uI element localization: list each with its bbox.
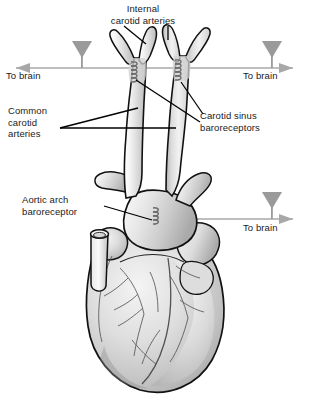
label-common-carotid-line1: Common bbox=[8, 105, 86, 117]
label-common-carotid-line3: arteries bbox=[8, 128, 86, 140]
label-carotid-sinus-line2: baroreceptors bbox=[200, 122, 308, 134]
right-auricle bbox=[180, 261, 213, 294]
label-carotid-sinus-line1: Carotid sinus bbox=[200, 110, 308, 122]
left-carotid-nerve-marker bbox=[72, 41, 92, 68]
leader-carotid-sinus-left bbox=[136, 80, 200, 122]
label-common-carotid-line2: carotid bbox=[8, 117, 86, 129]
label-aortic-arch-line1: Aortic arch bbox=[22, 194, 122, 206]
superior-vena-cava-stump bbox=[91, 230, 109, 291]
label-internal-carotid-line1: Internal bbox=[88, 3, 198, 15]
left-subclavian-artery bbox=[176, 173, 211, 206]
external-carotid-artery-right bbox=[186, 28, 210, 62]
label-carotid-sinus-baroreceptors: Carotid sinus baroreceptors bbox=[200, 110, 308, 133]
label-internal-carotid-line2: carotid arteries bbox=[88, 15, 198, 27]
label-aortic-arch-baroreceptor: Aortic arch baroreceptor bbox=[22, 194, 122, 217]
label-common-carotid-arteries: Common carotid arteries bbox=[8, 105, 86, 140]
label-internal-carotid-arteries: Internal carotid arteries bbox=[88, 3, 198, 26]
leader-internal-carotid-left bbox=[124, 26, 146, 44]
svc-wall bbox=[91, 234, 108, 291]
baroreceptor-anatomy-figure: Internal carotid arteries Common carotid… bbox=[0, 0, 309, 399]
label-to-brain-aorta: To brain bbox=[243, 222, 303, 234]
svc-cut-lumen bbox=[94, 232, 106, 237]
label-to-brain-right: To brain bbox=[243, 70, 303, 82]
label-to-brain-left: To brain bbox=[6, 70, 66, 82]
label-aortic-arch-line2: baroreceptor bbox=[22, 206, 122, 218]
